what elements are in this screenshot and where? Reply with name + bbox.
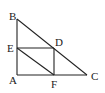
point-label-C: C: [91, 70, 98, 82]
point-label-A: A: [9, 74, 17, 86]
point-label-E: E: [7, 42, 14, 54]
point-label-F: F: [51, 78, 57, 90]
segment-BC: [17, 19, 87, 75]
geometry-diagram: ABCDEF: [0, 0, 105, 93]
point-label-D: D: [55, 36, 63, 48]
segment-EF: [17, 48, 54, 75]
point-label-B: B: [9, 10, 16, 22]
